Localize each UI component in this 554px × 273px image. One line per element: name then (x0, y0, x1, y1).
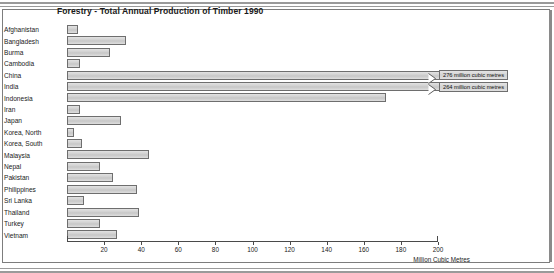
bar (67, 139, 82, 148)
category-label-row: India (4, 81, 64, 92)
category-label: Japan (4, 117, 22, 124)
top-rule-thick (0, 2, 554, 4)
value-axis-tick-label: 140 (315, 246, 339, 253)
category-label: Bangladesh (4, 38, 39, 45)
value-axis-tick (215, 242, 216, 245)
value-axis-tick-label: 20 (92, 246, 116, 253)
category-label-row: Afghanistan (4, 24, 64, 35)
bar (67, 208, 139, 217)
bar (67, 150, 149, 159)
chart-title: Forestry - Total Annual Production of Ti… (57, 6, 263, 16)
category-label: Cambodia (4, 60, 34, 67)
value-axis-tick (141, 242, 142, 245)
category-label-row: Vietnam (4, 229, 64, 240)
chart-page: Forestry - Total Annual Production of Ti… (0, 0, 554, 273)
bar-row (67, 104, 438, 115)
category-label: Vietnam (4, 232, 28, 239)
value-axis-tick (104, 242, 105, 245)
category-label-row: Nepal (4, 161, 64, 172)
bottom-rule-thin (0, 268, 554, 269)
category-label: Malaysia (4, 152, 30, 159)
value-axis-tick-label: 100 (241, 246, 265, 253)
category-label: India (4, 83, 18, 90)
category-label: Afghanistan (4, 26, 39, 33)
category-label-row: Turkey (4, 218, 64, 229)
bar-row (67, 81, 438, 92)
category-label-row: Pakistan (4, 172, 64, 183)
category-label-row: China (4, 70, 64, 81)
value-axis-tick (364, 242, 365, 245)
value-axis-tick (438, 242, 439, 245)
bar-row (67, 70, 438, 81)
value-axis-tick-label: 180 (389, 246, 413, 253)
value-axis-start-cap (67, 236, 68, 241)
value-axis-tick-label: 160 (352, 246, 376, 253)
overflow-value-label: 276 million cubic metres (443, 72, 504, 78)
value-axis-tick-label: 200 (426, 246, 450, 253)
overflow-value-label: 264 million cubic metres (443, 84, 504, 90)
bar-row (67, 127, 438, 138)
overflow-value-box: 276 million cubic metres (439, 70, 508, 80)
category-label-row: Indonesia (4, 92, 64, 103)
value-axis-tick (290, 242, 291, 245)
category-label: Philippines (4, 186, 36, 193)
category-label-row: Japan (4, 115, 64, 126)
bar (67, 36, 126, 45)
category-label: Turkey (4, 220, 24, 227)
bar (67, 82, 439, 91)
bar-row (67, 138, 438, 149)
category-label-row: Thailand (4, 207, 64, 218)
overflow-value-box: 264 million cubic metres (439, 82, 508, 92)
bar-row (67, 229, 438, 240)
value-axis-title: Million Cubic Metres (0, 256, 470, 263)
value-axis-tick (253, 242, 254, 245)
category-label-row: Malaysia (4, 149, 64, 160)
bar (67, 59, 80, 68)
bar (67, 116, 121, 125)
value-axis-tick (401, 242, 402, 245)
bar (67, 105, 80, 114)
bar (67, 196, 84, 205)
bar-row (67, 47, 438, 58)
bar-row (67, 92, 438, 103)
value-axis-tick-label: 80 (203, 246, 227, 253)
bar-row (67, 115, 438, 126)
category-label-row: Sri Lanka (4, 195, 64, 206)
bar-row (67, 172, 438, 183)
bar (67, 162, 100, 171)
value-axis-tick-label: 40 (129, 246, 153, 253)
bar-row (67, 195, 438, 206)
bar-row (67, 149, 438, 160)
bar (67, 173, 113, 182)
value-axis-tick (327, 242, 328, 245)
bar (67, 230, 117, 239)
bar-row (67, 35, 438, 46)
category-axis-labels: AfghanistanBangladeshBurmaCambodiaChinaI… (4, 24, 64, 241)
category-label-row: Korea, South (4, 138, 64, 149)
bar (67, 48, 110, 57)
category-label: Burma (4, 49, 23, 56)
bar-row (67, 207, 438, 218)
bar-row (67, 184, 438, 195)
category-label-row: Korea, North (4, 127, 64, 138)
panel-right-edge (549, 10, 552, 262)
category-label: Thailand (4, 209, 29, 216)
category-label-row: Philippines (4, 184, 64, 195)
plot-area (67, 24, 438, 241)
category-label: Pakistan (4, 174, 29, 181)
bar (67, 128, 74, 137)
category-label: China (4, 72, 21, 79)
bar-row (67, 24, 438, 35)
category-label: Korea, North (4, 129, 41, 136)
bar-row (67, 58, 438, 69)
value-axis-tick-label: 60 (166, 246, 190, 253)
category-label-row: Bangladesh (4, 35, 64, 46)
bar-row (67, 161, 438, 172)
category-label: Iran (4, 106, 15, 113)
value-axis-tick-label: 120 (278, 246, 302, 253)
category-label: Korea, South (4, 140, 43, 147)
category-label-row: Burma (4, 47, 64, 58)
bar (67, 25, 78, 34)
category-label: Sri Lanka (4, 197, 32, 204)
bar (67, 71, 439, 80)
